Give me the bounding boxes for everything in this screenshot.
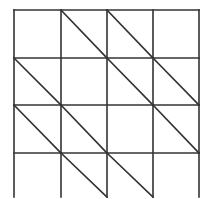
grid-diagram: [0, 0, 215, 199]
cell-diagonal-line: [107, 153, 153, 197]
cell-diagonal-line: [61, 105, 107, 153]
cell-diagonal-line: [153, 58, 199, 105]
cell-diagonal-line: [61, 153, 107, 197]
cell-diagonal-line: [107, 58, 153, 105]
grid-lines: [14, 10, 199, 197]
cell-diagonal-line: [14, 58, 61, 105]
cell-diagonal-line: [153, 105, 199, 153]
cell-diagonal-line: [14, 105, 61, 153]
cell-diagonal-line: [107, 10, 153, 58]
cell-diagonal-line: [61, 10, 107, 58]
